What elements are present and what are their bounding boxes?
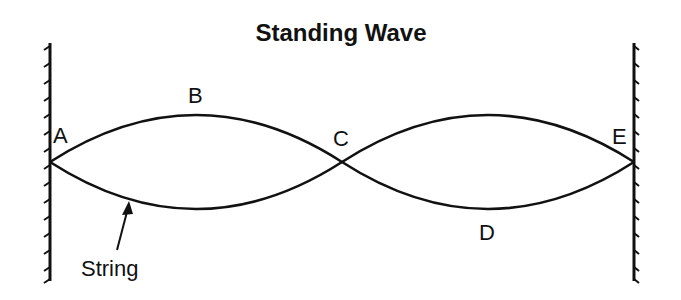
lower-left-arc: [50, 162, 342, 209]
string-annotation: String: [81, 201, 138, 281]
string-label: String: [81, 256, 138, 281]
left-wall: [44, 43, 50, 283]
label-A: A: [53, 123, 68, 148]
lower-right-arc: [342, 162, 634, 209]
label-D: D: [479, 220, 495, 245]
arrowhead-icon: [122, 201, 133, 215]
standing-wave-diagram: Standing Wave A B C D E: [0, 0, 681, 300]
label-C: C: [333, 126, 349, 151]
upper-left-arc: [50, 115, 342, 162]
diagram-title: Standing Wave: [255, 19, 426, 46]
right-wall: [634, 43, 639, 283]
label-B: B: [188, 83, 203, 108]
label-E: E: [612, 124, 627, 149]
upper-right-arc: [342, 115, 634, 162]
